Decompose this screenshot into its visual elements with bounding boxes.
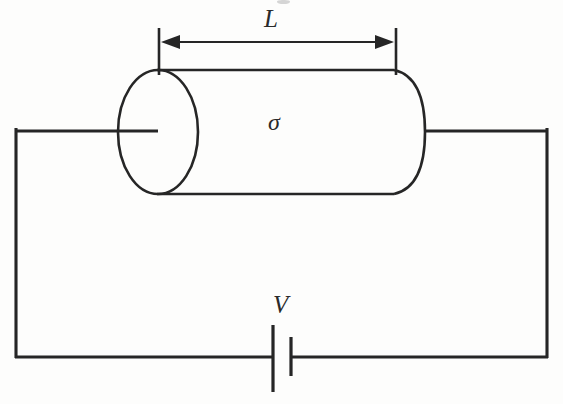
length-dimension-group <box>159 28 396 75</box>
dimension-arrowhead-left <box>161 35 180 49</box>
conductivity-label: σ <box>268 110 280 134</box>
circuit-wires-group <box>15 128 548 358</box>
voltage-label: V <box>273 292 288 317</box>
battery-group <box>273 325 291 392</box>
cylinder-right-cap <box>394 70 425 194</box>
diagram-canvas <box>0 0 563 404</box>
dimension-arrowhead-right <box>375 35 394 49</box>
length-label: L <box>264 6 278 31</box>
physics-circuit-diagram: L σ V <box>0 0 563 404</box>
